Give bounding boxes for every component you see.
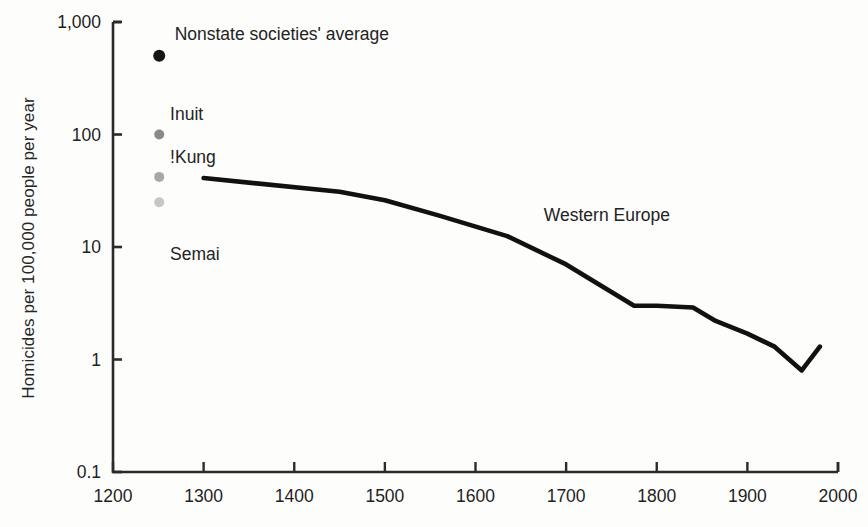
y-tick-label: 1,000 bbox=[57, 12, 101, 32]
reference-point-marker bbox=[153, 50, 165, 62]
series-line-western-europe bbox=[204, 178, 820, 370]
annotation-layer: Western Europe bbox=[544, 205, 670, 225]
x-tick-label: 1800 bbox=[637, 486, 676, 506]
series-layer bbox=[204, 178, 820, 370]
series-annotation-western-europe: Western Europe bbox=[544, 205, 670, 225]
axis-spines bbox=[113, 22, 838, 472]
x-tick-label: 1700 bbox=[547, 486, 586, 506]
y-tick-label: 100 bbox=[72, 125, 101, 145]
y-tick-label: 1 bbox=[91, 350, 101, 370]
chart-page: Homicides per 100,000 people per year 1,… bbox=[0, 0, 868, 527]
x-tick-label: 1500 bbox=[365, 486, 404, 506]
reference-point-marker bbox=[154, 130, 164, 140]
x-tick-label: 1300 bbox=[184, 486, 223, 506]
reference-points-layer: Nonstate societies' averageInuit!KungSem… bbox=[153, 24, 389, 264]
reference-point-label: !Kung bbox=[170, 147, 216, 167]
axis-frame bbox=[113, 22, 838, 472]
x-tick-label: 1400 bbox=[275, 486, 314, 506]
reference-point-label: Nonstate societies' average bbox=[175, 24, 389, 44]
homicide-rate-line-chart: Homicides per 100,000 people per year 1,… bbox=[0, 0, 868, 527]
y-axis-title-group: Homicides per 100,000 people per year bbox=[19, 97, 38, 399]
reference-point-marker bbox=[154, 197, 164, 207]
x-tick-label: 1200 bbox=[94, 486, 133, 506]
reference-point-label: Semai bbox=[170, 244, 220, 264]
y-tick-label: 0.1 bbox=[77, 462, 101, 482]
y-axis-title: Homicides per 100,000 people per year bbox=[19, 97, 38, 399]
x-tick-label: 1600 bbox=[456, 486, 495, 506]
reference-point-marker bbox=[154, 172, 164, 182]
x-tick-label: 1900 bbox=[728, 486, 767, 506]
x-tick-label: 2000 bbox=[819, 486, 858, 506]
x-axis-ticks: 120013001400150016001700180019002000 bbox=[94, 462, 858, 506]
reference-point-label: Inuit bbox=[170, 104, 203, 124]
y-tick-label: 10 bbox=[82, 237, 102, 257]
